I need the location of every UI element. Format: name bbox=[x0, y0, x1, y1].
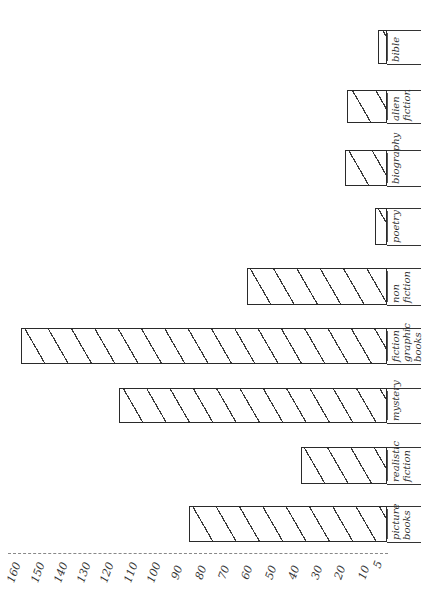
bar-mystery bbox=[119, 388, 387, 423]
axis-tick-label: 130 bbox=[74, 559, 94, 586]
axis-tick-label: 100 bbox=[144, 559, 164, 586]
axis-tick-label: 90 bbox=[167, 559, 187, 586]
bar-fiction-graphic-books bbox=[21, 328, 387, 364]
baseline-tick bbox=[387, 93, 388, 120]
category-label: books bbox=[413, 332, 423, 362]
category-label: picture bbox=[391, 504, 401, 540]
bar-biography bbox=[345, 150, 387, 186]
axis-tick-label: 60 bbox=[237, 559, 257, 586]
baseline-tick bbox=[387, 33, 388, 61]
baseline-tick bbox=[387, 331, 388, 361]
category-label: realistic bbox=[391, 441, 401, 482]
bar-edge-line bbox=[387, 186, 421, 187]
category-label: non bbox=[391, 284, 401, 303]
axis-tick-label: 70 bbox=[214, 559, 234, 586]
bar-edge-line bbox=[387, 484, 421, 485]
bar-non-fiction bbox=[247, 268, 387, 305]
bar-alien-fiction bbox=[347, 90, 387, 123]
baseline-tick bbox=[387, 211, 388, 242]
bar-bible bbox=[378, 30, 387, 64]
axis-tick-label: 5 bbox=[368, 551, 388, 578]
bar-edge-line bbox=[387, 123, 421, 124]
value-axis-line bbox=[8, 553, 388, 554]
category-label: bible bbox=[391, 37, 401, 62]
axis-tick-label: 20 bbox=[330, 559, 350, 586]
bar-edge-line bbox=[387, 305, 421, 306]
bar-edge-line bbox=[387, 268, 421, 269]
category-label: fiction bbox=[402, 450, 412, 482]
category-label: fiction bbox=[402, 89, 412, 121]
bar-picture-books bbox=[189, 506, 387, 542]
bar-edge-line bbox=[387, 542, 421, 543]
baseline-tick bbox=[387, 391, 388, 420]
category-label: alien bbox=[391, 96, 401, 121]
bar-edge-line bbox=[387, 30, 421, 31]
axis-tick-label: 160 bbox=[4, 559, 24, 586]
category-label: graphic bbox=[402, 323, 412, 362]
axis-tick-label: 50 bbox=[260, 559, 280, 586]
axis-tick-label: 40 bbox=[284, 559, 304, 586]
bar-poetry bbox=[375, 208, 387, 245]
bar-edge-line bbox=[387, 208, 421, 209]
axis-tick-label: 30 bbox=[307, 559, 327, 586]
category-label: biography bbox=[391, 133, 401, 184]
baseline-tick bbox=[387, 509, 388, 539]
bar-chart: picturebooksrealisticfictionmysteryficti… bbox=[0, 0, 440, 597]
axis-tick-label: 150 bbox=[27, 559, 47, 586]
category-label: fiction bbox=[402, 271, 412, 303]
axis-tick-label: 140 bbox=[51, 559, 71, 586]
bar-edge-line bbox=[387, 364, 421, 365]
bar-edge-line bbox=[387, 64, 421, 65]
bar-edge-line bbox=[387, 423, 421, 424]
baseline-tick bbox=[387, 450, 388, 481]
baseline-tick bbox=[387, 153, 388, 183]
bar-edge-line bbox=[387, 245, 421, 246]
axis-tick-label: 110 bbox=[120, 559, 140, 586]
bar-realistic-fiction bbox=[301, 447, 387, 484]
axis-tick-label: 120 bbox=[97, 559, 117, 586]
axis-tick-label: 80 bbox=[190, 559, 210, 586]
category-label: books bbox=[402, 510, 412, 540]
category-label: mystery bbox=[391, 380, 401, 421]
category-label: fiction bbox=[391, 330, 401, 362]
category-label: poetry bbox=[391, 210, 401, 243]
baseline-tick bbox=[387, 271, 388, 302]
